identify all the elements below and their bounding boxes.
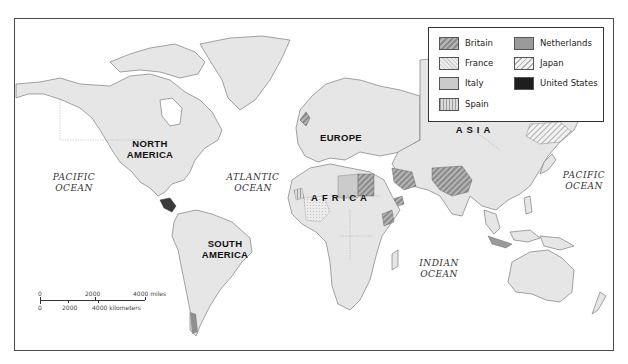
madagascar bbox=[392, 250, 398, 270]
scale-tick bbox=[95, 297, 96, 300]
australia bbox=[508, 250, 574, 302]
label-indian-ocean: INDIAN OCEAN bbox=[408, 258, 470, 280]
indian-line1: INDIAN bbox=[408, 258, 470, 269]
greenland bbox=[200, 36, 290, 110]
europe-landmass bbox=[296, 78, 420, 162]
italy-swatch-icon bbox=[439, 77, 459, 90]
legend-item-spain: Spain bbox=[439, 97, 489, 111]
legend-item-united-states: United States bbox=[514, 76, 598, 90]
spain-swatch-icon bbox=[439, 98, 459, 111]
arctic-islands bbox=[110, 44, 205, 78]
southeast-asia bbox=[484, 210, 500, 234]
dutch-east-indies bbox=[488, 236, 512, 248]
legend-label: Britain bbox=[465, 38, 493, 48]
scale-miles-4000: 4000 miles bbox=[133, 290, 166, 297]
legend-item-france: France bbox=[439, 56, 493, 70]
indonesia-islands bbox=[510, 230, 540, 242]
label-atlantic-ocean: ATLANTIC OCEAN bbox=[218, 172, 288, 194]
south-america-line2: AMERICA bbox=[192, 249, 258, 260]
scale-tick bbox=[98, 300, 99, 303]
new-guinea bbox=[540, 236, 574, 250]
legend-label: Netherlands bbox=[540, 38, 592, 48]
france-swatch-icon bbox=[439, 57, 459, 70]
atlantic-line1: ATLANTIC bbox=[218, 172, 288, 183]
legend-label: Japan bbox=[540, 58, 564, 68]
japan-swatch-icon bbox=[514, 57, 534, 70]
scale-km-4000: 4000 kilometers bbox=[92, 304, 141, 311]
netherlands-swatch-icon bbox=[514, 37, 534, 50]
scale-bar: 0 2000 4000 miles 0 2000 4000 kilometers bbox=[38, 290, 178, 320]
scale-km-0: 0 bbox=[38, 304, 42, 311]
legend-label: United States bbox=[540, 78, 598, 88]
legend-item-britain: Britain bbox=[439, 36, 493, 50]
label-pacific-ocean-east: PACIFIC OCEAN bbox=[556, 170, 612, 192]
legend-label: France bbox=[465, 58, 493, 68]
scale-line bbox=[40, 300, 145, 301]
pacific-west-line1: PACIFIC bbox=[44, 172, 104, 183]
legend-item-japan: Japan bbox=[514, 56, 564, 70]
new-zealand bbox=[592, 292, 606, 314]
legend-label: Italy bbox=[465, 78, 483, 88]
united-states-swatch-icon bbox=[514, 77, 534, 90]
pacific-east-line1: PACIFIC bbox=[556, 170, 612, 181]
legend-label: Spain bbox=[465, 99, 489, 109]
legend-item-netherlands: Netherlands bbox=[514, 36, 592, 50]
indian-line2: OCEAN bbox=[408, 269, 470, 280]
label-asia: ASIA bbox=[452, 124, 498, 135]
philippines bbox=[524, 196, 532, 214]
scale-miles-0: 0 bbox=[38, 290, 42, 297]
label-north-america: NORTH AMERICA bbox=[112, 138, 188, 160]
pacific-east-line2: OCEAN bbox=[556, 181, 612, 192]
south-america-line1: SOUTH bbox=[192, 238, 258, 249]
north-america-line2: AMERICA bbox=[112, 149, 188, 160]
scale-tick bbox=[68, 300, 69, 303]
scale-tick bbox=[145, 297, 146, 300]
label-south-america: SOUTH AMERICA bbox=[192, 238, 258, 260]
south-america-landmass bbox=[172, 210, 252, 336]
north-america-line1: NORTH bbox=[112, 138, 188, 149]
legend: Britain France Italy Spain Netherlands J… bbox=[428, 27, 604, 122]
label-africa: AFRICA bbox=[308, 192, 374, 203]
pacific-west-line2: OCEAN bbox=[44, 183, 104, 194]
us-central-america bbox=[160, 198, 176, 212]
britain-swatch-icon bbox=[439, 37, 459, 50]
scale-miles-2000: 2000 bbox=[85, 290, 100, 297]
label-europe: EUROPE bbox=[316, 132, 366, 143]
spanish-sahara bbox=[294, 188, 304, 200]
label-pacific-ocean-west: PACIFIC OCEAN bbox=[44, 172, 104, 194]
scale-tick bbox=[40, 297, 41, 304]
scale-km-2000: 2000 bbox=[62, 304, 77, 311]
atlantic-line2: OCEAN bbox=[218, 183, 288, 194]
legend-item-italy: Italy bbox=[439, 76, 483, 90]
